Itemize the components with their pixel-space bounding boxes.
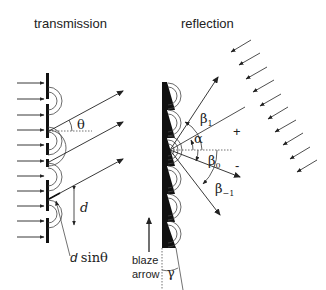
path-difference-label: d sinθ (70, 250, 108, 265)
alpha-label: α (194, 131, 203, 146)
blaze-label-line1: blaze (132, 254, 158, 266)
theta-label: θ (77, 117, 85, 132)
facet-extension (176, 248, 183, 290)
transmission-title: transmission (34, 16, 107, 31)
reflection-panel (149, 40, 317, 290)
path-difference-segment (49, 193, 60, 199)
beta-zero-label: β0 (208, 153, 221, 168)
diffraction-grating-diagram (0, 0, 326, 290)
transmission-grating (46, 73, 49, 243)
reflection-grating (162, 82, 176, 248)
leader-line (56, 201, 70, 256)
reflection-title: reflection (181, 16, 234, 31)
minus-sign: - (235, 158, 239, 173)
incident-rays-transmission (17, 83, 44, 237)
blaze-label-line2: arrow (132, 268, 160, 280)
beta-plus1-label: β1 (200, 111, 213, 126)
gamma-label: γ (167, 265, 175, 280)
transmission-panel (17, 73, 123, 256)
incident-rays-reflection (231, 40, 317, 172)
theta-arc (69, 120, 72, 131)
plus-sign: + (233, 124, 241, 139)
beta-minus1-label: β−1 (215, 181, 234, 196)
spacing-label: d (80, 200, 88, 215)
diffracted-rays-transmission (49, 91, 123, 199)
